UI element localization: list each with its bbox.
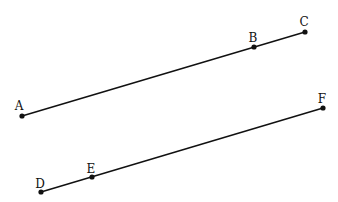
point-d: D	[35, 177, 45, 195]
segment-ac	[22, 32, 305, 116]
point-f: F	[318, 92, 326, 111]
point-b: B	[249, 31, 258, 50]
point-label: F	[318, 92, 326, 106]
point-e: E	[87, 162, 96, 180]
point-c: C	[299, 15, 308, 35]
segment-df	[41, 108, 323, 192]
point-label: B	[249, 31, 258, 45]
point-label: C	[299, 15, 308, 29]
point-label: A	[14, 99, 24, 113]
point-label: E	[87, 162, 96, 176]
point-label: D	[35, 177, 45, 191]
point-a: A	[14, 99, 25, 119]
geometry-diagram: A B C D E F	[0, 0, 338, 202]
